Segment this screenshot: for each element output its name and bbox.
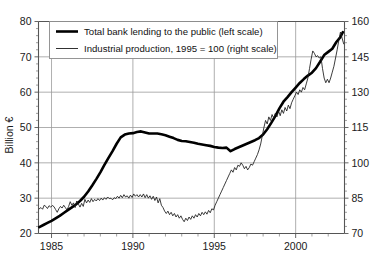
legend-label-total-bank-lending: Total bank lending to the public (left s… bbox=[84, 26, 263, 37]
y-tick-label-left: 50 bbox=[20, 121, 32, 133]
y-tick-label-left: 70 bbox=[20, 51, 32, 63]
y-tick-label-right: 160 bbox=[352, 15, 370, 27]
y-tick-label-left: 30 bbox=[20, 192, 32, 204]
dual-axis-line-chart: 1985199019952000 20304050607080 70851001… bbox=[0, 0, 383, 270]
y-tick-label-right: 130 bbox=[352, 86, 370, 98]
chart-legend: Total bank lending to the public (left s… bbox=[50, 22, 278, 59]
x-tick-label: 1995 bbox=[203, 240, 227, 252]
x-tick-label: 1990 bbox=[121, 240, 145, 252]
y-tick-label-right: 115 bbox=[352, 121, 369, 133]
y-axis-left-title: Billion € bbox=[3, 116, 15, 153]
x-tick-label: 1985 bbox=[40, 240, 64, 252]
y-tick-label-right: 85 bbox=[352, 192, 364, 204]
y-tick-label-right: 100 bbox=[352, 157, 370, 169]
y-tick-label-right: 145 bbox=[352, 51, 370, 63]
y-tick-label-left: 80 bbox=[20, 15, 32, 27]
y-axis-left-title-text: Billion € bbox=[3, 116, 15, 153]
chart-container: 1985199019952000 20304050607080 70851001… bbox=[0, 0, 383, 270]
legend-label-industrial-production: Industrial production, 1995 = 100 (right… bbox=[84, 43, 277, 54]
y-tick-label-left: 40 bbox=[20, 157, 32, 169]
y-tick-label-left: 60 bbox=[20, 86, 32, 98]
y-tick-label-left: 20 bbox=[20, 227, 32, 239]
x-tick-label: 2000 bbox=[284, 240, 308, 252]
y-tick-label-right: 70 bbox=[352, 227, 364, 239]
